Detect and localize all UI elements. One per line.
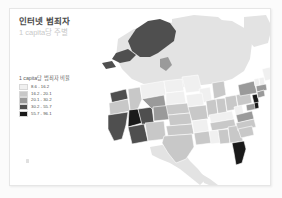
map-region-iowa xyxy=(186,93,204,107)
map-region-california xyxy=(108,112,128,141)
map-region-arizona xyxy=(128,124,148,144)
legend-item-label: 20.1 - 30.2 xyxy=(31,97,52,103)
map-region-new-york xyxy=(238,81,257,96)
map-region-idaho xyxy=(128,87,142,110)
map-region-new-mexico xyxy=(145,121,166,141)
legend-item-label: 55.7 - 96.1 xyxy=(31,111,52,117)
map-svg xyxy=(76,13,271,186)
map-region-florida xyxy=(232,141,246,165)
choropleth-map xyxy=(76,13,271,186)
screenshot-viewport: 인터넷 범죄자 1 capita당 주별 1 capita당 범죄자 비율 8.… xyxy=(0,0,282,198)
legend-swatch-icon xyxy=(19,104,28,110)
slide-card: 인터넷 범죄자 1 capita당 주별 1 capita당 범죄자 비율 8.… xyxy=(9,8,271,186)
legend-swatch-icon xyxy=(19,111,28,117)
map-region-south-dakota xyxy=(166,91,186,105)
legend-swatch-icon xyxy=(19,84,28,90)
map-regions-usa xyxy=(108,67,271,165)
map-region-alabama xyxy=(218,129,230,144)
map-region-michigan xyxy=(212,81,226,99)
map-region-north-dakota xyxy=(164,79,184,93)
map-region-arkansas xyxy=(192,119,209,133)
legend-item-label: 16.2 - 20.1 xyxy=(31,91,52,97)
legend-item-label: 30.2 - 55.7 xyxy=(31,104,52,110)
corner-mark xyxy=(26,159,29,163)
legend-swatch-icon xyxy=(19,91,28,97)
legend-swatch-icon xyxy=(19,97,28,103)
map-region-central-america xyxy=(200,173,224,186)
legend-item-label: 8.6 - 16.2 xyxy=(31,84,49,90)
